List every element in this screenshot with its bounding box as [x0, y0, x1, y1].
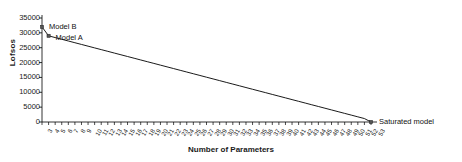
x-axis-title: Number of Parameters	[0, 145, 462, 154]
annotation-saturated-model: Saturated model	[379, 118, 434, 126]
annotation-model-b: Model B	[49, 23, 77, 31]
chart-figure: Lofsos 350003000025000200001500010000500…	[0, 0, 462, 162]
series-line	[42, 27, 371, 122]
annotation-model-a: Model A	[56, 34, 83, 42]
marker-model-b	[40, 25, 43, 28]
marker-saturated-model	[369, 120, 372, 123]
marker-model-a	[47, 34, 50, 37]
